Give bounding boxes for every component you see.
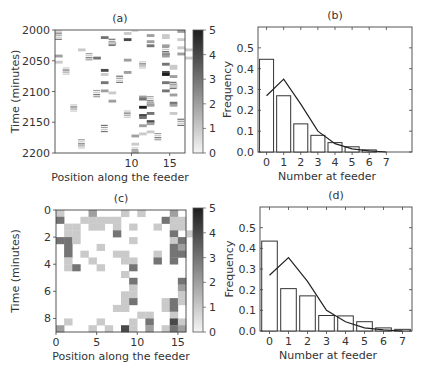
heatmap-streak: [147, 98, 154, 99]
heatmap-cell: [129, 237, 137, 244]
heatmap-cell: [121, 298, 129, 305]
heatmap-cell: [64, 264, 72, 271]
heatmap-cell: [72, 230, 80, 237]
colorbar-tick-label: 5: [209, 202, 216, 215]
heatmap-streak: [63, 67, 70, 68]
x-tick-label: 0: [263, 156, 270, 169]
heatmap-cell: [178, 251, 186, 258]
x-tick-label: 1: [285, 335, 292, 348]
heatmap-cell: [178, 278, 186, 285]
y-tick-label: 2: [44, 231, 51, 244]
heatmap-cell: [89, 224, 97, 231]
heatmap-cell: [170, 305, 178, 312]
heatmap-cell: [72, 224, 80, 231]
heatmap-cell: [101, 69, 109, 72]
heatmap-cell: [139, 124, 147, 127]
heatmap-cell: [109, 100, 117, 103]
heatmap-cell: [147, 104, 155, 107]
heatmap-cell: [113, 217, 121, 224]
x-tick-label: 3: [323, 335, 330, 348]
colorbar-tick-label: 4: [209, 227, 216, 240]
heatmap-streak: [86, 55, 93, 56]
colorbar-tick-label: 2: [209, 98, 216, 111]
heatmap-streak: [70, 106, 77, 107]
heatmap-streak: [63, 72, 70, 73]
x-tick-label: 0: [53, 336, 60, 349]
heatmap-cell: [109, 92, 117, 95]
x-tick-label: 7: [383, 156, 390, 169]
heatmap-cell: [162, 73, 170, 76]
heatmap-streak: [131, 149, 138, 150]
y-tick-label: 2150: [22, 116, 50, 129]
heatmap-cell: [162, 55, 170, 58]
heatmap-cell: [97, 217, 105, 224]
x-tick-label: 5: [93, 336, 100, 349]
y-tick-label: 2050: [22, 55, 50, 68]
heatmap-cell: [139, 106, 147, 109]
heatmap-cell: [170, 217, 178, 224]
heatmap-cell: [121, 271, 129, 278]
x-tick-label: 7: [399, 335, 406, 348]
y-tick-label: 0.5: [237, 42, 255, 55]
y-tick-label: 0.0: [239, 325, 257, 338]
heatmap-cell: [154, 251, 162, 258]
heatmap-cell: [131, 143, 139, 146]
heatmap-cell: [162, 217, 170, 224]
heatmap-cell: [80, 217, 88, 224]
panel-label: (d): [328, 189, 344, 202]
heatmap-streak: [70, 104, 77, 105]
heatmap-streak: [116, 80, 123, 81]
heatmap-cell: [170, 251, 178, 258]
heatmap-cell: [178, 224, 186, 231]
heatmap-streak: [139, 61, 146, 62]
heatmap-cell: [147, 122, 155, 125]
heatmap-cell: [56, 325, 64, 332]
heatmap-streak: [63, 74, 70, 75]
heatmap-streak: [109, 39, 116, 40]
x-tick-label: 6: [366, 156, 373, 169]
heatmap-cell: [56, 210, 64, 217]
y-tick-label: 0.1: [239, 304, 257, 317]
heatmap-cell: [154, 257, 162, 264]
x-tick-label: 2: [297, 156, 304, 169]
heatmap-cell: [55, 61, 63, 64]
heatmap-cell: [154, 224, 162, 231]
heatmap-cell: [101, 81, 109, 84]
heatmap-cell: [64, 244, 72, 251]
heatmap-cell: [89, 257, 97, 264]
heatmap-streak: [170, 86, 177, 87]
heatmap-cell: [64, 224, 72, 231]
heatmap-cell: [72, 237, 80, 244]
heatmap-streak: [63, 69, 70, 70]
heatmap-streak: [55, 31, 62, 32]
x-tick-label: 10: [130, 336, 144, 349]
heatmap-cell: [145, 312, 153, 319]
colorbar: [193, 208, 203, 332]
heatmap-streak: [109, 41, 116, 42]
heatmap-cell: [129, 325, 137, 332]
heatmap-cell: [137, 210, 145, 217]
panel-label: (a): [112, 12, 127, 25]
heatmap-cell: [170, 224, 178, 231]
heatmap-cell: [72, 264, 80, 271]
heatmap-cell: [56, 237, 64, 244]
heatmap-cell: [178, 237, 186, 244]
heatmap-streak: [78, 141, 85, 142]
x-tick-label: 5: [361, 335, 368, 348]
histogram-bar: [281, 289, 297, 331]
heatmap-streak: [101, 131, 108, 132]
heatmap-cell: [162, 305, 170, 312]
x-tick-label: 15: [171, 336, 185, 349]
heatmap-cell: [139, 133, 147, 136]
x-axis-label: Number at feeder: [279, 349, 377, 362]
panel-b: (b)0.00.10.20.30.40.501234567Number at f…: [221, 9, 412, 183]
heatmap-streak: [131, 147, 138, 148]
heatmap-streak: [177, 125, 184, 126]
heatmap-cell: [162, 44, 170, 47]
heatmap-cell: [97, 244, 105, 251]
heatmap-cell: [147, 130, 155, 133]
heatmap-cell: [147, 112, 155, 115]
heatmap-streak: [101, 129, 108, 130]
heatmap-cell: [129, 318, 137, 325]
heatmap-streak: [139, 65, 146, 66]
